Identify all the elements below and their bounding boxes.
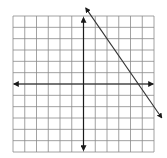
graphed-line (86, 8, 162, 118)
coordinate-plane (0, 0, 167, 158)
